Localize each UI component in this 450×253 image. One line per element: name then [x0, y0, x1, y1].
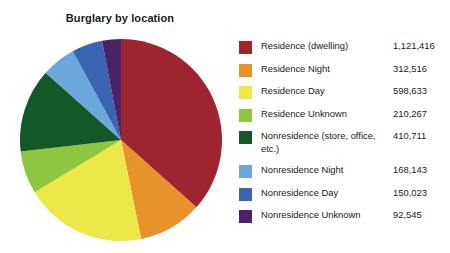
legend-item[interactable]: Nonresidence Night168,143 [239, 164, 447, 178]
legend-item-value: 312,516 [393, 63, 447, 76]
legend-item-label: Residence Day [261, 85, 393, 98]
legend-color-swatch [239, 210, 252, 223]
legend-item[interactable]: Residence Night312,516 [239, 63, 447, 77]
legend-color-swatch [239, 188, 252, 201]
legend-item-value: 598,633 [393, 85, 447, 98]
legend-color-swatch [239, 109, 252, 122]
pie-chart-svg [20, 39, 222, 241]
legend-item-value: 92,545 [393, 209, 447, 222]
legend-item[interactable]: Residence (dwelling)1,121,416 [239, 40, 447, 54]
legend-item[interactable]: Nonresidence (store, office, etc.)410,71… [239, 130, 447, 155]
pie-chart [20, 39, 222, 241]
legend-item[interactable]: Residence Day598,633 [239, 85, 447, 99]
legend-item[interactable]: Nonresidence Day150,023 [239, 187, 447, 201]
legend-item-label: Residence Night [261, 63, 393, 76]
legend-item[interactable]: Nonresidence Unknown92,545 [239, 209, 447, 223]
legend-item-value: 168,143 [393, 164, 447, 177]
legend-color-swatch [239, 165, 252, 178]
legend-item-label: Nonresidence Day [261, 187, 393, 200]
legend-item-value: 410,711 [393, 130, 447, 143]
legend-item-label: Nonresidence Night [261, 164, 393, 177]
legend-item-value: 1,121,416 [393, 40, 447, 53]
legend-color-swatch [239, 64, 252, 77]
legend-item-label: Residence Unknown [261, 108, 393, 121]
legend-item-label: Residence (dwelling) [261, 40, 393, 53]
legend-item-value: 150,023 [393, 187, 447, 200]
page-title: Burglary by location [0, 12, 240, 24]
legend-item[interactable]: Residence Unknown210,267 [239, 108, 447, 122]
legend-item-label: Nonresidence (store, office, etc.) [261, 130, 393, 155]
chart-page: Burglary by location Residence (dwelling… [0, 0, 450, 253]
chart-legend: Residence (dwelling)1,121,416Residence N… [239, 40, 447, 232]
legend-item-value: 210,267 [393, 108, 447, 121]
legend-color-swatch [239, 86, 252, 99]
legend-color-swatch [239, 41, 252, 54]
legend-item-label: Nonresidence Unknown [261, 209, 393, 222]
legend-color-swatch [239, 131, 252, 144]
